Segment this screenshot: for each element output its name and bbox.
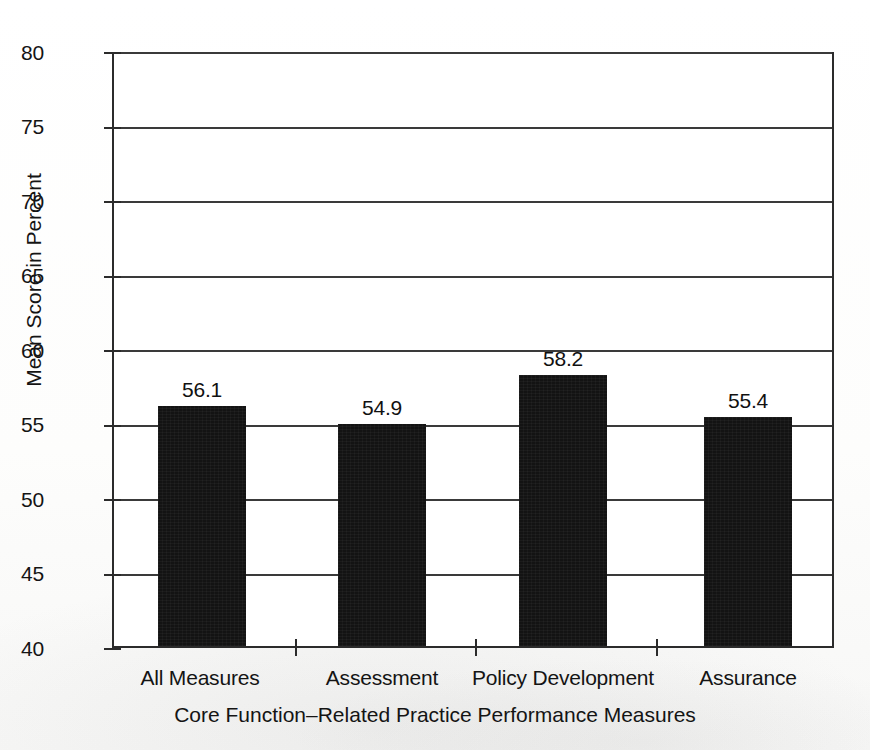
x-category-label-policy-development: Policy Development: [443, 666, 683, 690]
y-tick-mark-60: [104, 350, 121, 352]
gridline-70: [114, 201, 832, 203]
bar-all-measures: [158, 406, 246, 646]
x-axis-title: Core Function–Related Practice Performan…: [0, 703, 870, 727]
y-tick-label-40: 40: [0, 637, 44, 661]
y-tick-label-60: 60: [0, 339, 44, 363]
y-tick-label-80: 80: [0, 41, 44, 65]
bar-chart-figure: Mean Score in Percent 80 75 70 65 60 55 …: [0, 0, 870, 750]
bar-assessment: [338, 424, 426, 646]
y-tick-mark-40: [104, 648, 121, 650]
y-tick-label-75: 75: [0, 115, 44, 139]
y-tick-mark-55: [104, 425, 121, 427]
bar-value-label-assurance: 55.4: [704, 389, 792, 413]
bar-value-label-all-measures: 56.1: [158, 378, 246, 402]
x-category-label-assurance: Assurance: [648, 666, 848, 690]
gridline-60: [114, 350, 832, 352]
gridline-65: [114, 276, 832, 278]
y-tick-mark-65: [104, 276, 121, 278]
gridline-75: [114, 127, 832, 129]
gridline-80: [114, 52, 832, 54]
y-tick-label-70: 70: [0, 190, 44, 214]
x-tick-mark-3: [656, 639, 658, 656]
bar-value-label-policy-development: 58.2: [519, 347, 607, 371]
y-tick-mark-75: [104, 127, 121, 129]
y-tick-label-55: 55: [0, 413, 44, 437]
y-tick-label-65: 65: [0, 264, 44, 288]
bar-value-label-assessment: 54.9: [338, 396, 426, 420]
x-tick-mark-2: [475, 639, 477, 656]
y-tick-label-50: 50: [0, 488, 44, 512]
y-tick-label-45: 45: [0, 562, 44, 586]
x-tick-mark-1: [295, 639, 297, 656]
y-tick-mark-45: [104, 574, 121, 576]
bar-policy-development: [519, 375, 607, 646]
x-category-label-all-measures: All Measures: [100, 666, 300, 690]
y-tick-mark-80: [104, 52, 121, 54]
y-tick-mark-70: [104, 201, 121, 203]
y-tick-mark-50: [104, 499, 121, 501]
plot-area: 80 75 70 65 60 55 50 45 40 56.1 54.9 58.…: [112, 52, 834, 648]
bar-assurance: [704, 417, 792, 646]
